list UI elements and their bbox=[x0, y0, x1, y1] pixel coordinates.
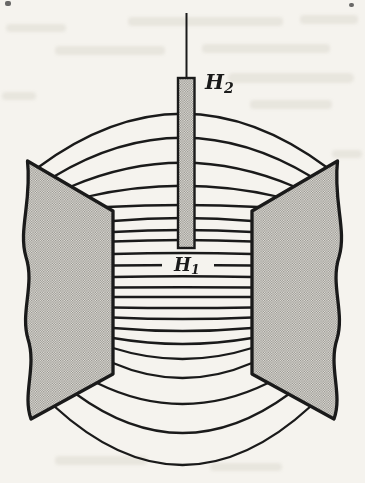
bleed-through-artifact bbox=[210, 463, 282, 471]
field-line-gap bbox=[113, 276, 252, 277]
scan-speck bbox=[5, 1, 11, 6]
bleed-through-artifact bbox=[300, 15, 358, 24]
bleed-through-artifact bbox=[128, 17, 283, 26]
bleed-through-artifact bbox=[2, 92, 36, 100]
bleed-through-artifact bbox=[55, 46, 165, 55]
bleed-through-artifact bbox=[6, 24, 66, 32]
scan-speck bbox=[349, 3, 354, 7]
bleed-through-artifact bbox=[202, 44, 330, 53]
h2-label-subscript: 2 bbox=[223, 80, 234, 96]
bleed-through-artifact bbox=[332, 150, 362, 158]
scanned-book-page: H2 H1 bbox=[0, 0, 365, 483]
h1-label-subscript: 1 bbox=[191, 262, 200, 277]
magnet-gap-field-diagram: H2 H1 bbox=[0, 0, 365, 483]
bleed-through-artifact bbox=[250, 100, 332, 109]
bleed-through-artifact bbox=[228, 73, 354, 83]
probe-rod bbox=[178, 78, 195, 248]
h1-label-base: H bbox=[173, 254, 192, 275]
h2-label-base: H bbox=[204, 70, 225, 94]
field-line-gap bbox=[113, 308, 252, 309]
